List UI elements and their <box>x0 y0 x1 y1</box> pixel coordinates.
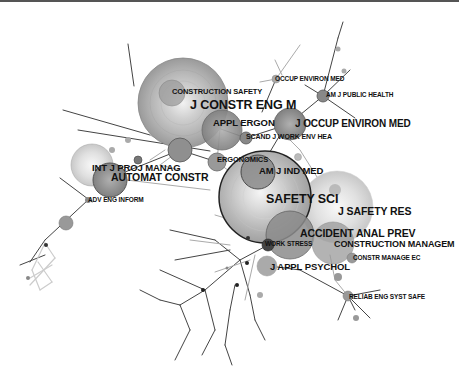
label-work-stress: WORK STRESS <box>265 241 312 248</box>
label-am-j-ind-med: AM J IND MED <box>259 166 323 176</box>
node-appl-ergon[interactable] <box>202 110 242 150</box>
label-accident-anal-prev: ACCIDENT ANAL PREV <box>300 228 415 239</box>
network-diagram: CONSTRUCTION SAFETY J CONSTR ENG M APPL … <box>0 0 459 372</box>
label-constr-manage-ec: CONSTR MANAGE EC <box>353 255 420 262</box>
label-construction-managem: CONSTRUCTION MANAGEM <box>334 240 455 249</box>
label-construction-safety: CONSTRUCTION SAFETY <box>172 88 262 96</box>
label-occup-environ-med: OCCUP ENVIRON MED <box>275 76 344 83</box>
label-safety-sci: SAFETY SCI <box>266 193 338 206</box>
label-automat-constr: AUTOMAT CONSTR <box>111 172 208 183</box>
label-j-safety-res: J SAFETY RES <box>338 206 411 217</box>
label-scand-j-work-env-hea: SCAND J WORK ENV HEA <box>246 133 332 140</box>
label-am-j-public-health: AM J PUBLIC HEALTH <box>326 92 393 99</box>
label-j-appl-psychol: J APPL PSYCHOL <box>270 262 350 272</box>
label-j-constr-eng-m: J CONSTR ENG M <box>190 99 296 112</box>
label-j-occup-environ-med: J OCCUP ENVIRON MED <box>295 119 411 129</box>
network-graph <box>0 0 459 372</box>
label-ergonomics: ERGONOMICS <box>217 156 268 164</box>
label-adv-eng-inform: ADV ENG INFORM <box>88 197 144 204</box>
label-reliab-eng-syst-safe: RELIAB ENG SYST SAFE <box>349 294 425 301</box>
label-appl-ergon: APPL ERGON <box>213 118 275 128</box>
